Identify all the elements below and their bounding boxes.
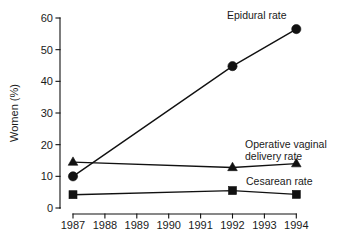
x-axis-tick-label: 1992 [220, 219, 244, 231]
y-axis-tick-label: 0 [47, 202, 53, 214]
x-axis: 19871988198919901991199219931994 [60, 208, 309, 231]
series-label-operative-vaginal-line1: Operative vaginal [245, 138, 327, 150]
data-point-square [229, 187, 237, 195]
y-axis-tick-label: 20 [41, 139, 53, 151]
y-axis-title: Women (%) [8, 84, 20, 142]
data-point-circle [68, 172, 77, 181]
line-chart-canvas: 0102030405060Women (%)198719881989199019… [0, 0, 346, 249]
y-axis: 0102030405060 [41, 12, 60, 214]
series-line [73, 162, 296, 167]
series-annotations: Epidural rateOperative vaginaldelivery r… [227, 9, 327, 187]
data-point-triangle [68, 157, 78, 165]
data-point-square [69, 191, 77, 199]
y-axis-tick-label: 30 [41, 107, 53, 119]
y-axis-tick-label: 40 [41, 75, 53, 87]
x-axis-tick-label: 1990 [156, 219, 180, 231]
data-point-circle [228, 62, 237, 71]
chart-figure: 0102030405060Women (%)198719881989199019… [0, 0, 346, 249]
x-axis-tick-label: 1989 [125, 219, 149, 231]
series-label-cesarean-rate: Cesarean rate [246, 175, 313, 187]
y-axis-tick-label: 50 [41, 44, 53, 56]
series-cesarean-rate [69, 187, 300, 199]
series-label-operative-vaginal-line2: delivery rate [245, 150, 302, 162]
series-label-epidural-rate: Epidural rate [227, 9, 287, 21]
x-axis-tick-label: 1993 [252, 219, 276, 231]
y-axis-tick-label: 10 [41, 170, 53, 182]
data-point-square [292, 190, 300, 198]
series-line [73, 191, 296, 195]
x-axis-tick-label: 1991 [188, 219, 212, 231]
x-axis-tick-label: 1987 [61, 219, 85, 231]
x-axis-tick-label: 1988 [93, 219, 117, 231]
data-point-circle [292, 24, 301, 33]
data-point-triangle [228, 162, 238, 170]
x-axis-tick-label: 1994 [284, 219, 308, 231]
y-axis-tick-label: 60 [41, 12, 53, 24]
